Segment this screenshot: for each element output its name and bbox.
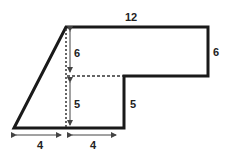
top-width-label: 12 [125, 11, 137, 23]
composite-shape-diagram: 12 6 6 5 5 4 4 [0, 0, 227, 155]
inner-lower-height-label: 5 [74, 98, 80, 110]
right-height-label: 6 [213, 46, 219, 58]
step-height-label: 5 [130, 98, 136, 110]
bottom-right-width-label: 4 [90, 139, 97, 151]
shape-outline [14, 27, 208, 128]
inner-upper-height-label: 6 [74, 47, 80, 59]
diagram-svg: 12 6 6 5 5 4 4 [0, 0, 227, 155]
bottom-left-width-label: 4 [37, 139, 44, 151]
